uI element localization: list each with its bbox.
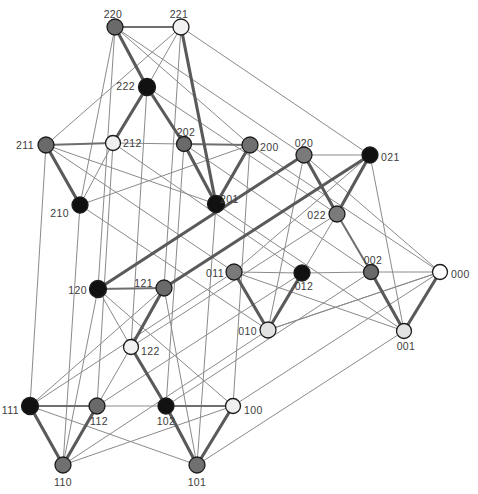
graph-node[interactable]: [364, 265, 379, 280]
graph-node[interactable]: [89, 398, 105, 414]
graph-edge: [131, 87, 147, 347]
graph-edge: [63, 406, 233, 465]
graph-edge: [63, 205, 80, 465]
graph-node-label: 221: [170, 8, 189, 20]
graph-node-label: 010: [238, 325, 257, 337]
graph-edge: [97, 273, 302, 406]
graph-node-label: 102: [157, 415, 176, 427]
graph-node-label: 021: [381, 151, 400, 163]
graph-edge: [46, 145, 80, 205]
graph-node[interactable]: [242, 137, 258, 153]
graph-node-label: 101: [188, 476, 207, 488]
graph-edge: [404, 272, 440, 331]
graph-node-label: 120: [68, 284, 87, 296]
graph-node[interactable]: [106, 136, 121, 151]
graph-node-label: 011: [206, 267, 224, 279]
graph-edge: [234, 272, 404, 331]
graph-node[interactable]: [296, 147, 312, 163]
label-layer: 2202212222112122022000200212102010220110…: [2, 8, 470, 488]
graph-edge: [197, 406, 233, 465]
graph-node-label: 121: [134, 277, 153, 289]
graph-node[interactable]: [433, 265, 448, 280]
graph-edge: [131, 288, 164, 347]
graph-edge: [181, 27, 216, 204]
graph-node[interactable]: [362, 147, 378, 163]
graph-node-label: 112: [90, 415, 108, 427]
graph-edge: [371, 272, 404, 331]
graph-node-label: 012: [295, 280, 314, 292]
graph-node[interactable]: [22, 398, 39, 415]
graph-edge: [97, 347, 131, 406]
graph-edge: [197, 204, 216, 465]
graph-node-label: 200: [260, 141, 279, 153]
graph-node[interactable]: [124, 340, 139, 355]
graph-node-label: 220: [104, 8, 123, 20]
graph-node[interactable]: [158, 398, 174, 414]
graph-node[interactable]: [156, 280, 172, 296]
graph-edge: [302, 214, 337, 273]
graph-edge: [80, 143, 113, 205]
graph-edge: [234, 272, 268, 330]
graph-edge: [197, 331, 404, 465]
graph-node-label: 022: [307, 209, 326, 221]
graph-node[interactable]: [139, 79, 156, 96]
graph-node[interactable]: [294, 265, 310, 281]
graph-figure: 2202212222112122022000200212102010220110…: [0, 0, 478, 494]
graph-edge: [98, 288, 164, 289]
graph-edge: [80, 27, 115, 205]
graph-node-label: 202: [177, 126, 196, 138]
graph-node-label: 201: [220, 193, 239, 205]
graph-node[interactable]: [38, 137, 54, 153]
graph-node-label: 212: [123, 137, 142, 149]
graph-node-label: 100: [244, 404, 263, 416]
graph-edge: [147, 27, 181, 87]
graph-node-label: 002: [364, 254, 383, 266]
graph-edge: [234, 272, 302, 273]
graph-node[interactable]: [107, 19, 123, 35]
graph-edge: [115, 27, 147, 87]
graph-node[interactable]: [226, 399, 241, 414]
graph-node-label: 000: [451, 268, 470, 280]
node-layer: [22, 19, 448, 473]
graph-edge: [184, 144, 250, 145]
graph-edge: [30, 406, 63, 465]
graph-node[interactable]: [177, 137, 192, 152]
graph-node[interactable]: [226, 264, 242, 280]
graph-node-label: 111: [2, 404, 19, 416]
graph-node-label: 211: [16, 139, 34, 151]
graph-node-label: 210: [50, 207, 69, 219]
graph-edge: [302, 272, 371, 273]
graph-node[interactable]: [55, 457, 71, 473]
graph-node-label: 001: [397, 340, 416, 352]
graph-edge: [30, 145, 46, 406]
graph-node[interactable]: [72, 197, 88, 213]
graph-node[interactable]: [90, 281, 107, 298]
graph-edge: [113, 87, 147, 143]
graph-node[interactable]: [260, 322, 276, 338]
graph-edge: [234, 155, 370, 272]
graph-node-label: 020: [295, 137, 314, 149]
graph-edge: [63, 289, 98, 465]
graph-node-label: 110: [54, 476, 72, 488]
graph-node[interactable]: [397, 324, 412, 339]
graph-node[interactable]: [173, 19, 189, 35]
graph-edge: [46, 143, 113, 145]
graph-node-label: 122: [141, 345, 160, 357]
graph-node[interactable]: [189, 457, 205, 473]
graph-edge: [370, 155, 404, 331]
graph-canvas: 2202212222112122022000200212102010220110…: [0, 0, 478, 494]
graph-edge: [98, 289, 131, 347]
graph-edge: [166, 272, 371, 406]
graph-node-label: 222: [116, 80, 135, 92]
graph-node[interactable]: [329, 206, 345, 222]
